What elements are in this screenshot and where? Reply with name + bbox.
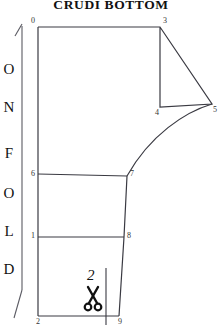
fold-letter-o-1: O (2, 62, 16, 77)
vertex-label-3: 3 (163, 17, 167, 25)
vertex-label-9: 9 (118, 318, 122, 326)
guide-line-6-7 (38, 174, 127, 176)
upper-triangle-outline (38, 27, 212, 107)
vertex-label-4: 4 (155, 109, 159, 117)
fold-arrow-tail (14, 290, 22, 318)
lower-side-edge (119, 176, 127, 316)
pattern-outline-svg (0, 0, 222, 328)
vertex-label-0: 0 (31, 17, 35, 25)
fold-letter-o-2: O (2, 186, 16, 201)
pattern-figure: CRUDI BOTTOM O N (0, 0, 222, 328)
cut-quantity-label: 2 (87, 268, 95, 283)
side-seam-curve (127, 104, 212, 176)
vertex-label-2: 2 (36, 318, 40, 326)
fold-letter-d: D (2, 262, 16, 277)
vertex-label-5: 5 (213, 106, 217, 114)
vertex-label-7: 7 (130, 170, 134, 178)
fold-letter-n: N (2, 100, 16, 115)
vertex-label-6: 6 (31, 170, 35, 178)
fold-letter-f: F (2, 146, 16, 161)
fold-arrow-head (15, 24, 22, 36)
vertex-label-8: 8 (127, 232, 131, 240)
vertex-label-1: 1 (31, 232, 35, 240)
scissors-icon (85, 287, 102, 310)
fold-letter-l: L (2, 224, 16, 239)
